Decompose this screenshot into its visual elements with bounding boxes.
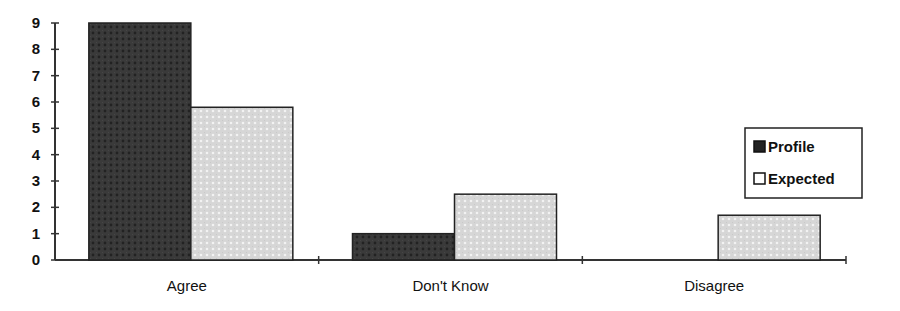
y-tick-label: 4 [32, 146, 41, 163]
x-axis: AgreeDon't KnowDisagree [55, 256, 846, 294]
x-category-label: Agree [167, 277, 207, 294]
y-tick-label: 1 [32, 225, 40, 242]
bar-expected-agree [191, 107, 293, 260]
y-tick-label: 9 [32, 14, 40, 31]
x-category-label: Don't Know [412, 277, 488, 294]
y-tick-label: 5 [32, 119, 40, 136]
y-tick-label: 6 [32, 93, 40, 110]
legend-swatch-expected [754, 173, 765, 184]
bar-profile-agree [89, 23, 191, 260]
bar-expected-disagree [718, 215, 820, 260]
y-axis: 0123456789 [32, 14, 59, 268]
bars [89, 23, 820, 260]
y-tick-label: 0 [32, 251, 40, 268]
y-tick-label: 8 [32, 40, 40, 57]
legend-label-expected: Expected [768, 170, 835, 187]
legend: ProfileExpected [745, 128, 862, 198]
legend-swatch-profile [754, 141, 765, 152]
legend-label-profile: Profile [768, 138, 815, 155]
bar-profile-don-t-know [353, 234, 455, 260]
bar-chart: 0123456789 AgreeDon't KnowDisagree Profi… [0, 0, 900, 311]
bar-expected-don-t-know [455, 194, 557, 260]
y-tick-label: 2 [32, 198, 40, 215]
y-tick-label: 7 [32, 67, 40, 84]
x-category-label: Disagree [684, 277, 744, 294]
y-tick-label: 3 [32, 172, 40, 189]
